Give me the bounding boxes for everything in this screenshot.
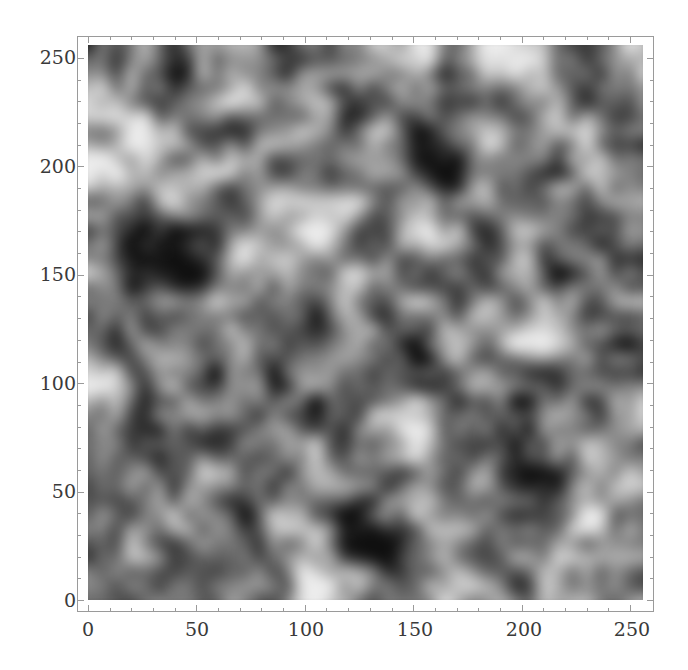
x-tick-bottom — [630, 605, 631, 611]
y-tick-left — [78, 383, 84, 384]
x-tick-top — [608, 37, 609, 40]
x-tick-top — [88, 37, 89, 43]
y-tick-left — [78, 513, 81, 514]
x-tick-bottom — [240, 608, 241, 611]
y-tick-right — [650, 318, 653, 319]
y-tick-right — [650, 340, 653, 341]
y-tick-right — [650, 253, 653, 254]
y-tick-right — [650, 535, 653, 536]
y-tick-right — [650, 80, 653, 81]
x-tick-top — [348, 37, 349, 40]
y-tick-left — [78, 578, 81, 579]
x-tick-bottom — [348, 608, 349, 611]
y-tick-left — [78, 80, 81, 81]
x-tick-top — [413, 37, 414, 43]
density-plot-image — [88, 45, 643, 600]
y-tick-label-200: 200 — [40, 155, 76, 177]
x-tick-top — [370, 37, 371, 40]
y-tick-left — [78, 253, 81, 254]
y-tick-right — [650, 188, 653, 189]
y-tick-left — [78, 210, 81, 211]
y-tick-left — [78, 557, 81, 558]
y-tick-right — [650, 557, 653, 558]
x-tick-bottom — [392, 608, 393, 611]
y-tick-left — [78, 600, 84, 601]
x-tick-top — [326, 37, 327, 40]
x-tick-label-200: 200 — [506, 618, 542, 640]
y-tick-right — [650, 101, 653, 102]
x-tick-top — [131, 37, 132, 40]
x-tick-bottom — [305, 605, 306, 611]
x-tick-bottom — [500, 608, 501, 611]
x-tick-bottom — [457, 608, 458, 611]
x-tick-bottom — [543, 608, 544, 611]
y-tick-left — [78, 318, 81, 319]
x-tick-top — [261, 37, 262, 40]
x-tick-bottom — [370, 608, 371, 611]
x-tick-bottom — [88, 605, 89, 611]
y-tick-left — [78, 145, 81, 146]
y-tick-right — [650, 145, 653, 146]
x-tick-top — [392, 37, 393, 40]
y-tick-left — [78, 427, 81, 428]
y-tick-left — [78, 58, 84, 59]
x-tick-bottom — [435, 608, 436, 611]
y-tick-right — [650, 513, 653, 514]
y-tick-left — [78, 470, 81, 471]
y-tick-right — [650, 362, 653, 363]
y-tick-left — [78, 166, 84, 167]
x-tick-top — [522, 37, 523, 43]
noise-grain-overlay — [88, 45, 643, 600]
x-tick-top — [110, 37, 111, 40]
x-tick-bottom — [565, 608, 566, 611]
y-tick-left — [78, 188, 81, 189]
x-tick-bottom — [413, 605, 414, 611]
x-tick-bottom — [478, 608, 479, 611]
x-tick-top — [435, 37, 436, 40]
x-tick-bottom — [608, 608, 609, 611]
x-tick-top — [283, 37, 284, 40]
y-tick-right — [650, 578, 653, 579]
y-tick-left — [78, 123, 81, 124]
y-tick-label-150: 150 — [40, 263, 76, 285]
y-tick-left — [78, 231, 81, 232]
y-tick-right — [647, 600, 653, 601]
y-tick-left — [78, 405, 81, 406]
y-tick-label-250: 250 — [40, 46, 76, 68]
x-tick-bottom — [587, 608, 588, 611]
y-tick-left — [78, 492, 84, 493]
x-tick-label-250: 250 — [614, 618, 650, 640]
y-tick-left — [78, 535, 81, 536]
y-tick-right — [650, 470, 653, 471]
y-tick-label-0: 0 — [64, 589, 76, 611]
y-tick-label-50: 50 — [52, 480, 76, 502]
y-tick-right — [647, 383, 653, 384]
y-tick-right — [647, 58, 653, 59]
x-tick-top — [565, 37, 566, 40]
y-tick-left — [78, 296, 81, 297]
y-tick-right — [650, 405, 653, 406]
x-tick-label-50: 50 — [185, 618, 209, 640]
y-tick-left — [78, 448, 81, 449]
x-tick-top — [240, 37, 241, 40]
y-tick-right — [650, 210, 653, 211]
x-tick-top — [305, 37, 306, 43]
x-tick-bottom — [131, 608, 132, 611]
x-tick-top — [218, 37, 219, 40]
x-tick-bottom — [175, 608, 176, 611]
x-tick-top — [457, 37, 458, 40]
y-tick-right — [647, 166, 653, 167]
x-tick-bottom — [326, 608, 327, 611]
x-tick-bottom — [283, 608, 284, 611]
y-tick-left — [78, 275, 84, 276]
y-tick-left — [78, 101, 81, 102]
x-tick-top — [500, 37, 501, 40]
y-tick-left — [78, 340, 81, 341]
y-tick-right — [647, 492, 653, 493]
x-tick-bottom — [261, 608, 262, 611]
y-tick-right — [650, 296, 653, 297]
y-tick-right — [650, 231, 653, 232]
x-tick-top — [196, 37, 197, 43]
y-tick-right — [650, 448, 653, 449]
y-tick-label-100: 100 — [40, 372, 76, 394]
